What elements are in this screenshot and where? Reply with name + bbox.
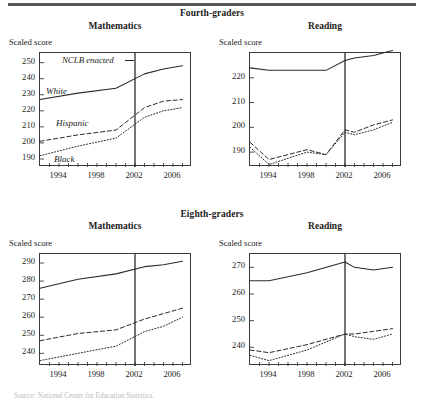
series-line-hispanic [250,120,393,160]
nclb-enacted-annotation: NCLB enacted [62,55,114,65]
y-tick-label: 260 [7,310,35,320]
x-tick-label: 2002 [326,369,362,379]
x-tick-label: 2002 [326,170,362,180]
series-line-black [250,334,393,361]
top-rule [8,3,416,6]
plot-grade8-math [39,253,191,365]
y-tick-label: 250 [7,328,35,338]
y-axis-caption-grade8-reading: Scaled score [219,238,262,248]
y-tick-label: 290 [7,256,35,266]
plot-grade4-math [39,52,191,166]
series-label-hispanic: Hispanic [56,118,89,128]
y-tick-label: 210 [7,120,35,130]
nclb-leader-line [125,60,134,61]
subject-title-eighth-reading: Reading [249,221,401,231]
x-tick-label: 1998 [288,369,324,379]
subject-title-fourth-mathematics: Mathematics [39,21,191,31]
plot-grade8-reading [249,253,401,365]
figure-root: Fourth-graders Mathematics Reading Scale… [0,0,424,401]
source-note: Source: National Center for Education St… [14,392,154,400]
panel-title-eighth-graders: Eighth-graders [0,209,424,219]
y-tick-label: 240 [7,72,35,82]
subject-title-fourth-reading: Reading [249,21,401,31]
y-tick-label: 200 [7,136,35,146]
panel-title-fourth-graders: Fourth-graders [0,8,424,18]
y-tick-label: 190 [217,145,245,155]
x-tick-label: 1994 [40,369,76,379]
y-tick-label: 250 [217,314,245,324]
subject-title-eighth-mathematics: Mathematics [39,221,191,231]
x-tick-label: 2006 [154,170,190,180]
x-tick-label: 1998 [78,170,114,180]
y-tick-label: 260 [217,287,245,297]
series-line-black [40,317,183,360]
series-line-white [250,51,393,71]
plot-canvas-grade4-math [40,53,192,167]
plot-canvas-grade8-reading [250,254,402,366]
x-tick-label: 2002 [116,369,152,379]
series-line-black [250,122,393,164]
y-tick-label: 200 [217,120,245,130]
y-tick-label: 240 [217,340,245,350]
y-axis-caption-grade4-reading: Scaled score [219,37,262,47]
x-tick-label: 1994 [250,369,286,379]
series-label-white: White [46,86,67,96]
series-line-hispanic [250,329,393,353]
y-tick-label: 190 [7,152,35,162]
x-tick-label: 2006 [364,170,400,180]
y-tick-label: 220 [7,104,35,114]
y-axis-caption-grade4-math: Scaled score [9,37,52,47]
y-tick-label: 280 [7,274,35,284]
series-line-hispanic [40,308,183,341]
series-line-white [250,262,393,281]
y-tick-label: 240 [7,346,35,356]
plot-grade4-reading [249,52,401,166]
x-tick-label: 2006 [364,369,400,379]
y-tick-label: 270 [7,292,35,302]
x-tick-label: 1998 [78,369,114,379]
series-label-black: Black [54,154,75,164]
series-line-white [40,261,183,288]
y-tick-label: 220 [217,71,245,81]
x-tick-label: 1994 [250,170,286,180]
x-tick-label: 2002 [116,170,152,180]
y-tick-label: 210 [217,96,245,106]
plot-canvas-grade4-reading [250,53,402,167]
y-tick-label: 230 [7,88,35,98]
plot-canvas-grade8-math [40,254,192,366]
y-axis-caption-grade8-math: Scaled score [9,238,52,248]
x-tick-label: 1994 [40,170,76,180]
y-tick-label: 270 [217,260,245,270]
y-tick-label: 250 [7,56,35,66]
series-line-black [40,108,183,156]
x-tick-label: 2006 [154,369,190,379]
x-tick-label: 1998 [288,170,324,180]
